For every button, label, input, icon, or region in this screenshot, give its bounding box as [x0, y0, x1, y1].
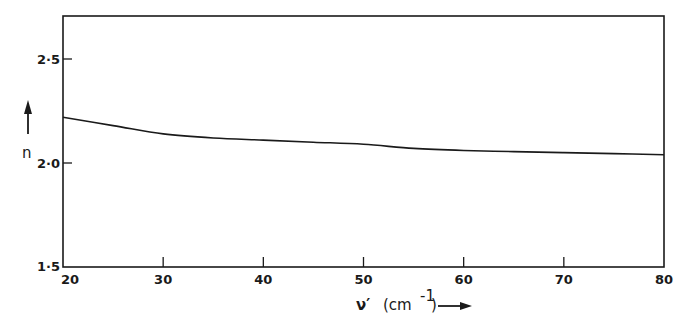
- y-axis-title: n: [22, 144, 32, 162]
- x-axis-unit-prefix: (cm: [383, 296, 412, 314]
- up-arrow-head-icon: [24, 100, 32, 114]
- x-axis-symbol: ν′: [356, 296, 370, 314]
- y-axis-label: n: [22, 100, 32, 162]
- x-tick-label: 60: [455, 272, 473, 287]
- x-tick-label: 40: [254, 272, 272, 287]
- y-axis-ticks: 1·52·02·5: [37, 52, 72, 274]
- x-tick-label: 20: [61, 272, 79, 287]
- refractive-index-chart: 20304050607080 1·52·02·5 n ν′ (cm -1 ): [0, 0, 684, 335]
- x-axis-unit-suffix: ): [431, 296, 437, 314]
- plot-frame: [63, 16, 664, 267]
- x-tick-label: 50: [354, 272, 372, 287]
- y-tick-label: 2·5: [37, 52, 60, 67]
- x-axis-label: ν′ (cm -1 ): [356, 287, 472, 314]
- x-tick-label: 30: [154, 272, 172, 287]
- y-tick-label: 2·0: [37, 156, 60, 171]
- data-line: [63, 117, 664, 155]
- y-tick-label: 1·5: [37, 259, 60, 274]
- x-tick-label: 80: [655, 272, 673, 287]
- x-tick-label: 70: [555, 272, 573, 287]
- x-axis-ticks: 20304050607080: [61, 257, 673, 287]
- right-arrow-head-icon: [460, 302, 472, 310]
